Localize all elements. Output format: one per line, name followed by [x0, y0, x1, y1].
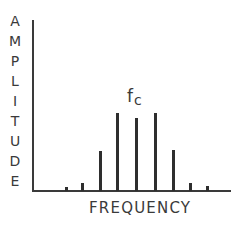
spectral-line-bar	[81, 183, 84, 191]
spectral-line-bar	[154, 113, 157, 191]
spectral-line-bar	[116, 113, 119, 191]
carrier-label-subscript: c	[134, 92, 142, 108]
y-axis-letter: D	[8, 151, 22, 171]
spectral-line-bar	[135, 118, 138, 191]
spectrum-diagram: A M P L I T U D E fc FREQUENCY	[0, 0, 245, 230]
y-axis-letter: A	[8, 11, 22, 31]
spectral-line-bar	[172, 150, 175, 191]
spectral-line-bar	[99, 151, 102, 191]
spectral-line-bar	[189, 183, 192, 191]
x-axis-label: FREQUENCY	[89, 199, 191, 217]
y-axis-letter: L	[8, 71, 22, 91]
y-axis-label: A M P L I T U D E	[8, 11, 22, 191]
carrier-frequency-label: fc	[127, 86, 142, 108]
y-axis-letter: M	[8, 31, 22, 51]
y-axis-letter: I	[8, 91, 22, 111]
y-axis-letter: U	[8, 131, 22, 151]
x-axis-line	[33, 190, 231, 192]
y-axis-letter: T	[8, 111, 22, 131]
spectral-line-bar	[206, 186, 209, 191]
y-axis-letter: E	[8, 171, 22, 191]
y-axis-line	[32, 20, 34, 192]
spectral-line-bar	[65, 187, 68, 191]
y-axis-letter: P	[8, 51, 22, 71]
carrier-label-f: f	[127, 86, 133, 106]
